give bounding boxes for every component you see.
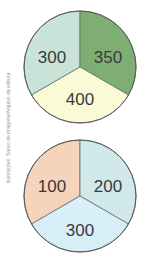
top-label-bottom: 400 [66,90,94,109]
top-label-upper-left: 300 [38,48,66,67]
bottom-label-upper-left: 100 [38,177,66,196]
bottom-label-upper-right: 200 [94,177,122,196]
pie-diagrams: 300 350 400 100 200 300 [0,0,145,275]
bottom-label-bottom: 300 [66,221,94,240]
top-circle: 300 350 400 [24,11,136,123]
bottom-circle: 100 200 300 [24,140,136,252]
top-label-upper-right: 350 [94,48,122,67]
